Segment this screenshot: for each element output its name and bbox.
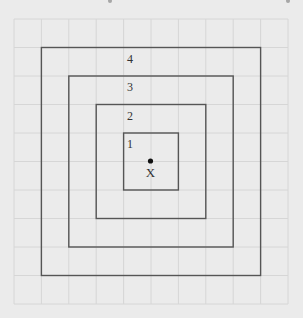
square-label-2: 2 <box>127 109 133 123</box>
square-label-4: 4 <box>127 52 133 66</box>
diagram-canvas: 4321 X <box>0 0 303 318</box>
center-label: X <box>146 165 156 180</box>
nested-squares-diagram: 4321 X <box>0 0 303 318</box>
cropped-artifact <box>108 0 112 3</box>
square-label-3: 3 <box>127 80 133 94</box>
cropped-artifact <box>286 0 290 3</box>
center-dot <box>148 158 153 163</box>
square-labels: 4321 <box>127 52 133 151</box>
top-edge-artifacts <box>108 0 290 3</box>
square-label-1: 1 <box>127 137 133 151</box>
